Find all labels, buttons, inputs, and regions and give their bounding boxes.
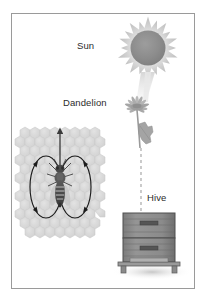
hive-stand-top xyxy=(118,262,180,266)
hive-stand-leg-left xyxy=(121,266,126,273)
hive-entrance-upper xyxy=(140,221,158,225)
diagram-canvas xyxy=(0,0,207,304)
sun-graphic xyxy=(117,17,179,80)
hive-graphic xyxy=(112,213,192,280)
hive-box-upper xyxy=(123,213,175,238)
diagram-figure: Sun Dandelion Hive xyxy=(0,0,207,304)
label-dandelion: Dandelion xyxy=(63,97,107,108)
dandelion-leaf-icon xyxy=(139,122,153,144)
label-sun: Sun xyxy=(77,40,94,51)
hive-stand-leg-right xyxy=(172,266,177,273)
hive-landing-board xyxy=(130,258,168,262)
sun-disc-icon xyxy=(131,31,166,66)
sunlight-beam xyxy=(136,72,155,103)
hive-entrance-lower xyxy=(140,246,158,250)
label-hive: Hive xyxy=(147,192,166,203)
dandelion-graphic xyxy=(124,96,153,148)
